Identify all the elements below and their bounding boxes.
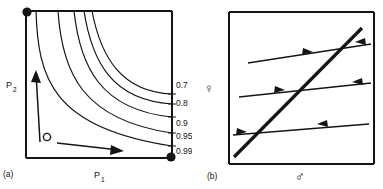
y-axis-label-text: P xyxy=(6,80,12,90)
female-symbol-icon: ♀ xyxy=(204,81,214,96)
contour-label-1: 0.8 xyxy=(176,98,188,108)
contour-curve-0 xyxy=(36,11,172,146)
trajectory-upper xyxy=(248,44,371,63)
trajectory-lower xyxy=(233,124,369,135)
arrow-right xyxy=(57,143,124,155)
x-axis-label-text: P xyxy=(94,170,100,180)
contour-label-3: 0.95 xyxy=(176,131,192,141)
panel-b: ♀ ♂ (b) xyxy=(191,0,383,189)
male-symbol-icon: ♂ xyxy=(295,169,305,184)
contour-curve-4 xyxy=(92,11,172,94)
x-axis-label-sub: 1 xyxy=(101,176,105,183)
panel-a-canvas: 0.7 0.8 0.9 0.95 0.99 xyxy=(0,0,192,189)
y-axis-label-sub: 2 xyxy=(13,86,17,93)
panel-a-frame xyxy=(26,11,172,158)
panel-label-a: (a) xyxy=(3,169,14,179)
trajectory-arrowheads xyxy=(236,38,366,135)
contour-label-0: 0.7 xyxy=(176,80,188,90)
contour-curve-3 xyxy=(84,11,172,104)
panel-label-b: (b) xyxy=(207,171,218,181)
panel-b-canvas: ♀ ♂ (b) xyxy=(191,0,383,189)
stable-point-top-left xyxy=(22,7,31,16)
panel-a-x-axis-label: P 1 xyxy=(94,170,105,183)
separatrix-line xyxy=(234,28,362,157)
contour-label-4: 0.99 xyxy=(176,146,192,156)
initial-condition-point xyxy=(43,133,50,140)
panel-a-y-axis-label: P 2 xyxy=(6,80,17,93)
arrowhead-lower-left xyxy=(317,120,328,127)
arrow-up xyxy=(31,70,41,142)
stable-point-bottom-right xyxy=(166,152,175,161)
panel-a: 0.7 0.8 0.9 0.95 0.99 xyxy=(0,0,192,189)
figure-root: 0.7 0.8 0.9 0.95 0.99 xyxy=(0,0,383,189)
contour-labels: 0.7 0.8 0.9 0.95 0.99 xyxy=(176,80,192,156)
contour-curve-2 xyxy=(74,11,172,117)
contour-label-2: 0.9 xyxy=(176,118,188,128)
contour-curves xyxy=(36,11,172,146)
arrowhead-upper-left xyxy=(355,38,366,45)
